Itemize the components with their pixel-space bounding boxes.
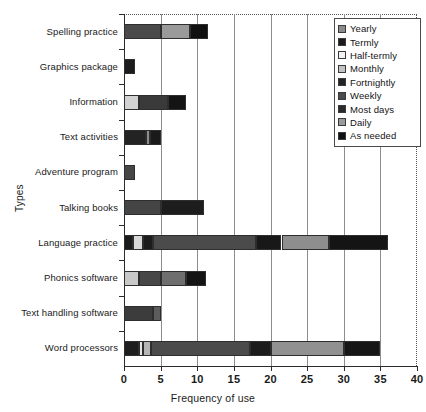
bar-row[interactable] bbox=[0, 271, 426, 286]
x-tick bbox=[124, 366, 125, 371]
y-tick bbox=[119, 155, 124, 156]
y-tick bbox=[119, 260, 124, 261]
bar-segment[interactable] bbox=[250, 341, 271, 356]
legend-swatch-icon bbox=[338, 51, 346, 59]
x-tick-label: 20 bbox=[256, 373, 286, 385]
bar-segment[interactable] bbox=[151, 341, 250, 356]
bar-segment[interactable] bbox=[153, 306, 160, 321]
legend-item[interactable]: Yearly bbox=[338, 22, 416, 35]
x-tick-label: 5 bbox=[146, 373, 176, 385]
legend-item[interactable]: Weekly bbox=[338, 89, 416, 102]
y-axis-title: Types bbox=[14, 184, 25, 212]
bar-segment[interactable] bbox=[139, 271, 161, 286]
x-axis-title: Frequency of use bbox=[0, 392, 426, 404]
y-tick bbox=[119, 225, 124, 226]
bar-segment[interactable] bbox=[124, 95, 139, 110]
bar-segment[interactable] bbox=[271, 341, 344, 356]
bar-segment[interactable] bbox=[256, 235, 282, 250]
bar-segment[interactable] bbox=[124, 200, 161, 215]
legend-swatch-icon bbox=[338, 78, 346, 86]
bar-row[interactable] bbox=[0, 235, 426, 250]
bar-segment[interactable] bbox=[124, 165, 135, 180]
legend-item[interactable]: Termly bbox=[338, 35, 416, 48]
legend-item[interactable]: Daily bbox=[338, 116, 416, 129]
bar-segment[interactable] bbox=[282, 235, 330, 250]
bar-row[interactable] bbox=[0, 306, 426, 321]
legend-item[interactable]: Half-termly bbox=[338, 49, 416, 62]
legend-label: Most days bbox=[350, 104, 394, 115]
x-tick-label: 30 bbox=[329, 373, 359, 385]
x-tick bbox=[344, 366, 345, 371]
bar-segment[interactable] bbox=[344, 341, 381, 356]
bar-segment[interactable] bbox=[124, 24, 161, 39]
bar-segment[interactable] bbox=[161, 200, 205, 215]
y-tick bbox=[119, 49, 124, 50]
y-axis-title-wrap: Types bbox=[2, 168, 16, 228]
bar-segment[interactable] bbox=[124, 271, 139, 286]
legend-label: Monthly bbox=[350, 63, 384, 74]
x-tick bbox=[307, 366, 308, 371]
x-tick bbox=[197, 366, 198, 371]
legend-swatch-icon bbox=[338, 38, 346, 46]
x-tick bbox=[380, 366, 381, 371]
legend-swatch-icon bbox=[338, 105, 346, 113]
bar-segment[interactable] bbox=[124, 59, 135, 74]
legend-label: Daily bbox=[350, 117, 372, 128]
legend-item[interactable]: As needed bbox=[338, 129, 416, 142]
x-tick-label: 40 bbox=[402, 373, 426, 385]
y-tick bbox=[119, 331, 124, 332]
legend-swatch-icon bbox=[338, 132, 346, 140]
legend-label: Fortnightly bbox=[350, 77, 395, 88]
bar-row[interactable] bbox=[0, 165, 426, 180]
bar-row[interactable] bbox=[0, 200, 426, 215]
bar-segment[interactable] bbox=[329, 235, 388, 250]
x-tick-label: 35 bbox=[365, 373, 395, 385]
y-tick bbox=[119, 120, 124, 121]
bar-segment[interactable] bbox=[124, 306, 153, 321]
x-tick-label: 10 bbox=[182, 373, 212, 385]
legend-label: Termly bbox=[350, 37, 379, 48]
legend-swatch-icon bbox=[338, 65, 346, 73]
x-tick bbox=[234, 366, 235, 371]
y-tick bbox=[119, 84, 124, 85]
legend-item[interactable]: Monthly bbox=[338, 62, 416, 75]
bar-segment[interactable] bbox=[143, 341, 151, 356]
legend-label: Half-termly bbox=[350, 50, 397, 61]
x-tick-label: 0 bbox=[109, 373, 139, 385]
bar-segment[interactable] bbox=[161, 24, 190, 39]
legend-label: Yearly bbox=[350, 23, 377, 34]
y-tick bbox=[119, 296, 124, 297]
chart-figure: 0510152025303540 Spelling practiceGraphi… bbox=[0, 0, 426, 412]
x-tick-label: 15 bbox=[219, 373, 249, 385]
bar-segment[interactable] bbox=[161, 271, 187, 286]
bar-segment[interactable] bbox=[133, 235, 143, 250]
y-tick bbox=[119, 190, 124, 191]
legend-label: As needed bbox=[350, 130, 396, 141]
bar-segment[interactable] bbox=[124, 235, 133, 250]
y-tick bbox=[119, 14, 124, 15]
bar-segment[interactable] bbox=[186, 271, 206, 286]
bar-segment[interactable] bbox=[168, 95, 186, 110]
x-tick-label: 25 bbox=[292, 373, 322, 385]
bar-segment[interactable] bbox=[153, 235, 256, 250]
x-tick bbox=[161, 366, 162, 371]
legend-label: Weekly bbox=[350, 90, 382, 101]
bar-segment[interactable] bbox=[124, 130, 146, 145]
legend-item[interactable]: Fortnightly bbox=[338, 76, 416, 89]
legend-swatch-icon bbox=[338, 92, 346, 100]
bar-segment[interactable] bbox=[139, 95, 168, 110]
bar-segment[interactable] bbox=[150, 130, 160, 145]
legend-swatch-icon bbox=[338, 25, 346, 33]
bar-segment[interactable] bbox=[124, 341, 139, 356]
bar-segment[interactable] bbox=[143, 235, 153, 250]
legend-item[interactable]: Most days bbox=[338, 102, 416, 115]
chart-legend: YearlyTermlyHalf-termlyMonthlyFortnightl… bbox=[334, 18, 421, 147]
x-tick bbox=[271, 366, 272, 371]
legend-swatch-icon bbox=[338, 118, 346, 126]
bar-row[interactable] bbox=[0, 341, 426, 356]
bar-segment[interactable] bbox=[190, 24, 208, 39]
x-tick bbox=[417, 366, 418, 371]
